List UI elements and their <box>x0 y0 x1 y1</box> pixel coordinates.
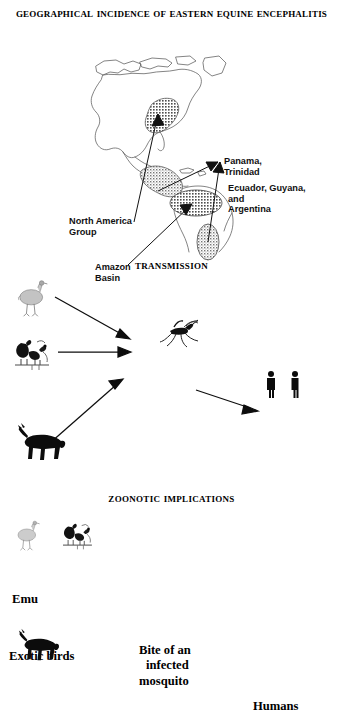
map-label-panama-trinidad: Panama, Trinidad <box>224 156 262 177</box>
zoonotic-icons <box>0 505 343 715</box>
section-heading-zoonotic: Zoonotic Implications <box>0 491 343 506</box>
figure-page: Geographical Incidence of Eastern Equine… <box>0 0 343 715</box>
arrow-horses-to-mosquito <box>42 385 116 450</box>
emu-icon <box>18 281 47 317</box>
emu-icon <box>18 521 40 550</box>
map-panel: Panama, Trinidad Ecuador, Guyana, and Ar… <box>0 52 343 252</box>
arrow-emu-to-mosquito <box>55 297 123 335</box>
americas-map-graphic <box>0 52 343 252</box>
page-title: Geographical Incidence of Eastern Equine… <box>14 6 329 21</box>
arrow-mosquito-to-humans <box>196 390 250 408</box>
humans-icon <box>267 371 299 398</box>
region-panama-trinidad <box>140 166 182 197</box>
map-label-ecuador-guyana-argentina: Ecuador, Guyana, and Argentina <box>228 183 306 215</box>
exotic-birds-icon <box>15 340 49 370</box>
transmission-diagram <box>0 275 343 490</box>
shaded-region-group <box>140 98 222 260</box>
horse-icon <box>18 423 65 460</box>
transmission-arrows <box>42 297 258 450</box>
map-label-north-america-group: North America Group <box>69 216 132 237</box>
region-north-america <box>145 98 179 133</box>
horse-icon <box>19 629 59 660</box>
section-heading-transmission: Transmission <box>0 258 343 273</box>
mosquito-icon <box>160 320 198 347</box>
transmission-panel: Emu Exotic birds Horses Bite of an infec… <box>0 275 343 490</box>
zoonotic-panel: Emu Exotic birds Horses } Amplifying hos… <box>0 505 343 715</box>
exotic-birds-icon <box>63 524 92 550</box>
